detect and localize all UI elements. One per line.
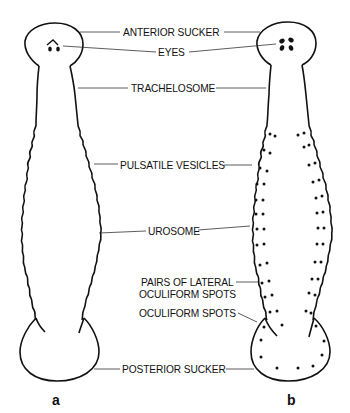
anterior-sucker-b (257, 22, 316, 65)
label-anterior-sucker: ANTERIOR SUCKER (123, 27, 219, 38)
eyes-b (278, 37, 294, 52)
lateral-oculiform-spots (255, 132, 326, 315)
label-pulsatile-vesicles: PULSATILE VESICLES (120, 160, 225, 171)
panel-label-a: a (52, 392, 60, 408)
label-urosome: UROSOME (148, 226, 200, 237)
leech-a (20, 23, 101, 381)
eyes-a (47, 40, 60, 52)
body-right-edge-a (70, 66, 101, 320)
body-right-edge-b (302, 65, 332, 320)
label-trachelosome: TRACHELOSOME (131, 83, 216, 94)
label-pairs-lateral-2: OCULIFORM SPOTS (139, 289, 236, 300)
leech-anatomy-diagram: ANTERIOR SUCKER EYES TRACHELOSOME PULSAT… (0, 0, 350, 413)
anterior-sucker-a (25, 23, 83, 66)
sucker-oculiform-spots (260, 324, 326, 370)
label-posterior-sucker: POSTERIOR SUCKER (122, 364, 226, 375)
label-oculiform-spots: OCULIFORM SPOTS (139, 308, 236, 319)
posterior-sucker-a (20, 318, 99, 381)
panel-label-b: b (287, 392, 296, 408)
label-eyes: EYES (158, 47, 185, 58)
leech-b (251, 22, 332, 381)
body-left-edge-a (21, 66, 39, 320)
label-pairs-lateral-1: PAIRS OF LATERAL (141, 277, 234, 288)
